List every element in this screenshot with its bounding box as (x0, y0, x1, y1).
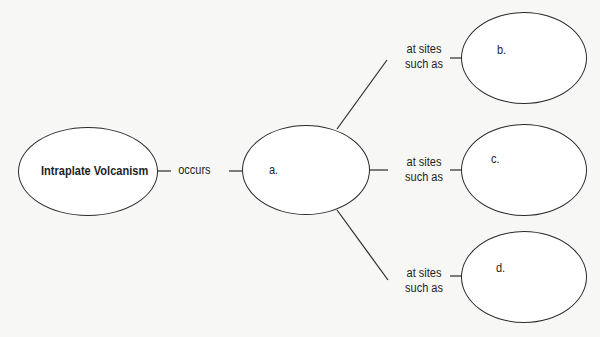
node-c-label: c. (491, 152, 500, 166)
node-b-label: b. (497, 43, 506, 57)
connector-a-to-branch-d (337, 210, 388, 280)
node-a-label: a. (269, 163, 278, 177)
link-label-sites-d-line2: such as (403, 281, 445, 296)
link-label-sites-d: at sites such as (403, 266, 445, 296)
root-node-label: Intraplate Volcanism (41, 163, 148, 178)
link-label-sites-b-line1: at sites (403, 42, 445, 57)
concept-map: Intraplate Volcanism occurs a. at sites … (0, 0, 600, 337)
link-label-sites-b-line2: such as (403, 57, 445, 72)
link-label-sites-d-line1: at sites (403, 266, 445, 281)
link-label-occurs: occurs (178, 163, 210, 178)
connector-a-to-branch-b (337, 60, 387, 129)
link-label-sites-c: at sites such as (403, 155, 445, 185)
node-a (242, 125, 370, 215)
link-label-sites-c-line2: such as (403, 170, 445, 185)
link-label-sites-c-line1: at sites (403, 155, 445, 170)
node-c (461, 124, 587, 216)
node-d-label: d. (496, 261, 505, 275)
link-label-sites-b: at sites such as (403, 42, 445, 72)
node-b (461, 12, 587, 104)
node-d (461, 231, 587, 323)
